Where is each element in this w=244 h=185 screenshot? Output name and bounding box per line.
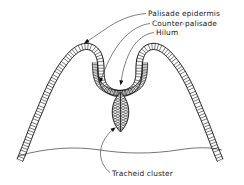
label-tracheid-cluster: Tracheid cluster	[111, 169, 174, 178]
figure-root: Palisade epidermisCounter-palisadeHilumT…	[0, 0, 244, 185]
label-hilum: Hilum	[156, 28, 178, 37]
label-counter-palisade: Counter-palisade	[152, 19, 217, 28]
label-palisade-epidermis: Palisade epidermis	[148, 9, 220, 18]
diagram-canvas: Palisade epidermisCounter-palisadeHilumT…	[0, 0, 244, 185]
